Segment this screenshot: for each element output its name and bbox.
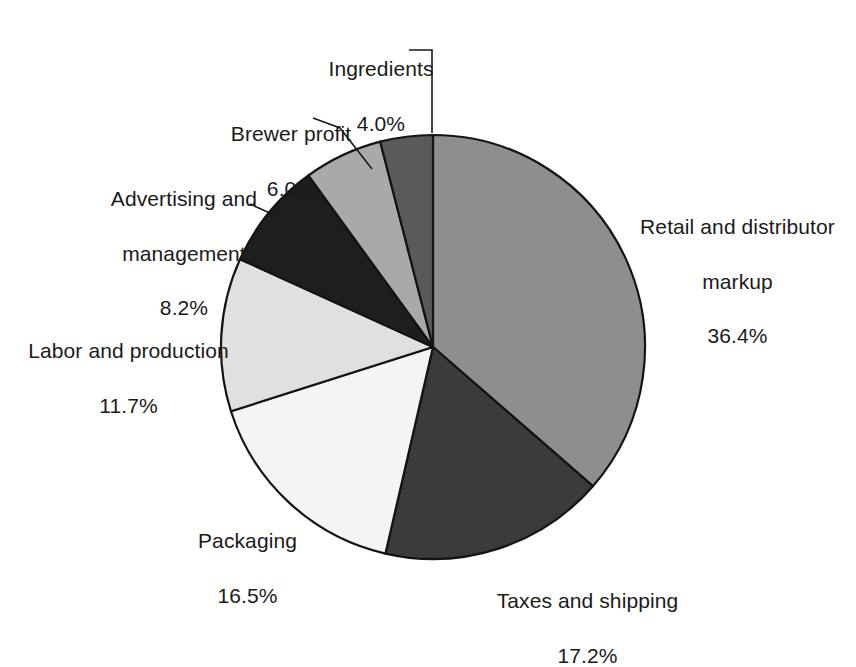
slice-label-brewer-profit-name: Brewer profit [186,120,396,147]
slice-label-labor-and-production: Labor and production 11.7% [16,310,241,446]
slice-label-packaging-name: Packaging [160,527,335,554]
slice-label-ingredients-name: Ingredients [276,55,486,82]
slice-label-packaging-value: 16.5% [160,582,335,609]
slice-label-retail-name-line2: markup [630,268,845,295]
slice-label-labor-value: 11.7% [16,392,241,419]
slice-label-labor-name: Labor and production [16,337,241,364]
slice-label-taxes-value: 17.2% [470,642,705,667]
slice-label-retail-value: 36.4% [630,322,845,349]
slice-label-taxes-name: Taxes and shipping [470,587,705,614]
slice-label-retail-and-distributor-markup: Retail and distributor markup 36.4% [630,186,845,377]
slice-label-advertising-name-line1: Advertising and [86,185,282,212]
slice-label-retail-name-line1: Retail and distributor [630,213,845,240]
slice-label-advertising-name-line2: management [86,240,282,267]
slice-label-taxes-and-shipping: Taxes and shipping 17.2% [470,560,705,667]
slice-label-packaging: Packaging 16.5% [160,500,335,636]
